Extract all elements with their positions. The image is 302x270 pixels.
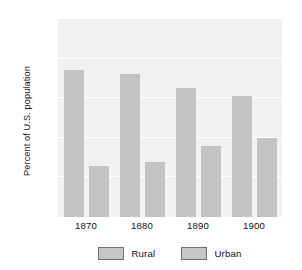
x-axis-tick-label: 1890 <box>187 220 209 231</box>
legend-swatch-icon <box>181 247 207 260</box>
gridline <box>58 18 282 19</box>
x-axis-tick-labels: 1870188018901900 <box>58 220 282 236</box>
bar <box>232 96 252 217</box>
y-axis-tick-labels: 20406080100 <box>0 0 58 270</box>
bar <box>120 74 140 217</box>
bar-chart: Percent of U.S. population 20406080100 1… <box>0 0 302 270</box>
plot-area <box>58 19 282 217</box>
legend-item-label: Urban <box>214 248 241 259</box>
bar <box>64 70 84 217</box>
bar <box>201 146 221 217</box>
bar <box>176 88 196 217</box>
x-axis-tick-label: 1880 <box>131 220 153 231</box>
bar <box>257 138 277 217</box>
legend-swatch-icon <box>98 247 124 260</box>
bar <box>89 166 109 217</box>
x-axis-tick-label: 1900 <box>243 220 265 231</box>
legend-item-label: Rural <box>131 248 155 259</box>
bar <box>145 162 165 217</box>
legend-item[interactable]: Rural <box>98 247 155 260</box>
legend-item[interactable]: Urban <box>181 247 241 260</box>
gridline <box>58 58 282 59</box>
chart-legend: RuralUrban <box>58 242 282 264</box>
x-axis-tick-label: 1870 <box>75 220 97 231</box>
